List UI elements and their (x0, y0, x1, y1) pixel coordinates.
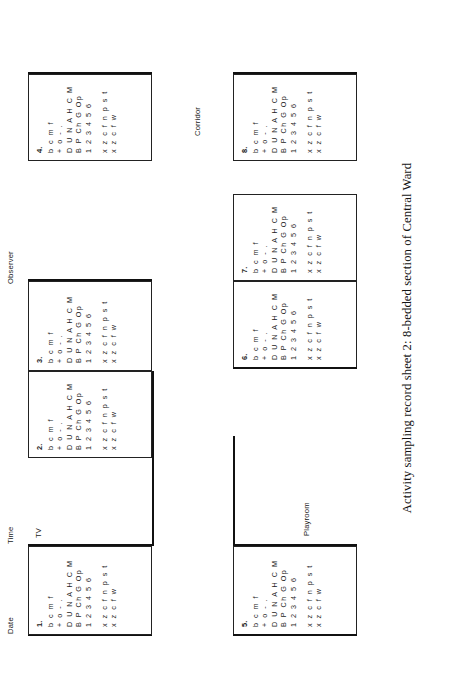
code-line-4: B P Ch G Op (74, 286, 83, 363)
code-line-2: + o - . (260, 199, 269, 273)
code-line-6: x z c f n p s t (305, 551, 314, 627)
wall-corridor-right (233, 73, 357, 75)
code-line-2: + o - . (260, 551, 269, 627)
time-field-label: Time (6, 527, 15, 544)
code-spacer (93, 551, 100, 627)
bed-cell-6[interactable]: 6. b c m f + o - . D U N A H C M B P Ch … (233, 281, 357, 368)
code-line-2: + o - . (260, 286, 269, 360)
code-line-1: b c m f (46, 376, 55, 450)
code-line-2: + o - . (55, 286, 64, 363)
code-line-4: B P Ch G Op (279, 286, 288, 360)
bed-number-6: 6. (240, 286, 250, 360)
code-line-3: D U N A H C M (270, 199, 279, 273)
bed-cell-3[interactable]: 3. b c m f + o - . D U N A H C M B P Ch … (28, 281, 152, 371)
code-line-6: x z c f n p s t (305, 199, 314, 273)
code-spacer (298, 79, 305, 153)
code-line-2: + o - . (55, 551, 64, 627)
code-line-3: D U N A H C M (65, 551, 74, 627)
code-line-3: D U N A H C M (65, 376, 74, 450)
wall-playroom-top (233, 436, 235, 546)
bed-number-8: 8. (240, 79, 250, 153)
code-line-1: b c m f (46, 551, 55, 627)
code-spacer (298, 199, 305, 273)
code-line-4: B P Ch G Op (74, 79, 83, 153)
bed-cell-2[interactable]: 2. b c m f + o - . D U N A H C M B P Ch … (28, 371, 152, 458)
bed-cell-4[interactable]: 4. b c m f + o - . D U N A H C M B P Ch … (28, 74, 152, 161)
code-line-3: D U N A H C M (270, 551, 279, 627)
code-line-6: x z c f n p s t (100, 286, 109, 363)
code-line-1: b c m f (251, 199, 260, 273)
code-line-7: x z c f w (314, 79, 323, 153)
code-line-1: b c m f (251, 551, 260, 627)
figure-caption: Activity sampling record sheet 2: 8-bedd… (400, 0, 415, 676)
playroom-label: Playroom (302, 502, 311, 536)
code-line-4: B P Ch G Op (279, 551, 288, 627)
code-line-3: D U N A H C M (270, 79, 279, 153)
code-line-5: 1 2 3 4 5 6 (84, 286, 93, 363)
code-line-7: x z c f w (314, 199, 323, 273)
code-spacer (93, 79, 100, 153)
code-line-5: 1 2 3 4 5 6 (289, 199, 298, 273)
bed-cell-5[interactable]: 5. b c m f + o - . D U N A H C M B P Ch … (233, 546, 357, 635)
code-spacer (298, 286, 305, 360)
code-line-6: x z c f n p s t (305, 286, 314, 360)
corridor-label: Corridor (193, 107, 202, 136)
code-line-6: x z c f n p s t (100, 79, 109, 153)
record-sheet-page: Date Time Observer 1. b c m f + o - . D … (0, 0, 462, 676)
bed-cell-1[interactable]: 1. b c m f + o - . D U N A H C M B P Ch … (28, 546, 152, 635)
bed-number-5: 5. (240, 551, 250, 627)
code-line-4: B P Ch G Op (74, 376, 83, 450)
code-line-7: x z c f w (109, 376, 118, 450)
code-line-5: 1 2 3 4 5 6 (289, 286, 298, 360)
code-spacer (93, 286, 100, 363)
wall-corridor-upper (28, 73, 152, 75)
bed-cell-7[interactable]: 7. b c m f + o - . D U N A H C M B P Ch … (233, 194, 357, 281)
code-line-6: x z c f n p s t (100, 376, 109, 450)
wall-divider-horizontal (152, 371, 154, 546)
code-line-5: 1 2 3 4 5 6 (84, 551, 93, 627)
date-field-label: Date (6, 617, 15, 634)
code-line-5: 1 2 3 4 5 6 (84, 79, 93, 153)
bed-number-2: 2. (35, 376, 45, 450)
code-line-1: b c m f (251, 79, 260, 153)
code-line-1: b c m f (251, 286, 260, 360)
bed-number-3: 3. (35, 286, 45, 363)
code-line-3: D U N A H C M (65, 79, 74, 153)
code-line-3: D U N A H C M (65, 286, 74, 363)
rotated-page-container: Date Time Observer 1. b c m f + o - . D … (0, 0, 462, 676)
code-spacer (298, 551, 305, 627)
code-line-1: b c m f (46, 286, 55, 363)
code-line-7: x z c f w (314, 551, 323, 627)
tv-label: TV (34, 528, 43, 538)
observer-field-label: Observer (6, 251, 15, 284)
code-line-6: x z c f n p s t (100, 551, 109, 627)
code-line-2: + o - . (260, 79, 269, 153)
ward-floor-plan: 1. b c m f + o - . D U N A H C M B P Ch … (28, 36, 358, 636)
code-line-5: 1 2 3 4 5 6 (84, 376, 93, 450)
wall-left-lower (233, 635, 357, 637)
bed-number-7: 7. (240, 199, 250, 273)
code-line-7: x z c f w (109, 551, 118, 627)
code-line-7: x z c f w (109, 79, 118, 153)
code-line-5: 1 2 3 4 5 6 (289, 79, 298, 153)
code-spacer (93, 376, 100, 450)
code-line-1: b c m f (46, 79, 55, 153)
bed-number-1: 1. (35, 551, 45, 627)
code-line-3: D U N A H C M (270, 286, 279, 360)
code-line-4: B P Ch G Op (279, 199, 288, 273)
wall-playroom-divider (233, 545, 357, 547)
code-line-4: B P Ch G Op (74, 551, 83, 627)
bed-number-4: 4. (35, 79, 45, 153)
code-line-4: B P Ch G Op (279, 79, 288, 153)
bed-cell-8[interactable]: 8. b c m f + o - . D U N A H C M B P Ch … (233, 74, 357, 161)
code-line-6: x z c f n p s t (305, 79, 314, 153)
code-line-7: x z c f w (109, 286, 118, 363)
code-line-7: x z c f w (314, 286, 323, 360)
code-line-2: + o - . (55, 79, 64, 153)
wall-bed6-left (233, 368, 357, 370)
code-line-2: + o - . (55, 376, 64, 450)
code-line-5: 1 2 3 4 5 6 (289, 551, 298, 627)
